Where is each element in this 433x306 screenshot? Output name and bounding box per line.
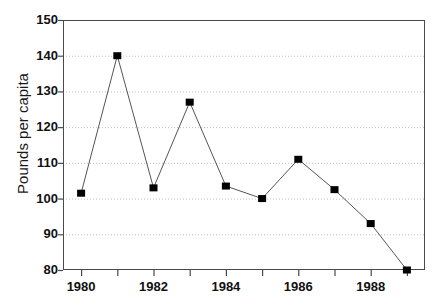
x-tick-label-1988: 1988 xyxy=(341,280,401,293)
x-tick-label-1980: 1980 xyxy=(51,280,111,293)
x-axis-tick-labels: 19801982198419861988 xyxy=(0,0,433,306)
x-tick-label-1986: 1986 xyxy=(268,280,328,293)
x-tick-label-1982: 1982 xyxy=(124,280,184,293)
chart-container: Pounds per capita 8090100110120130140150… xyxy=(0,0,433,306)
x-tick-label-1984: 1984 xyxy=(196,280,256,293)
